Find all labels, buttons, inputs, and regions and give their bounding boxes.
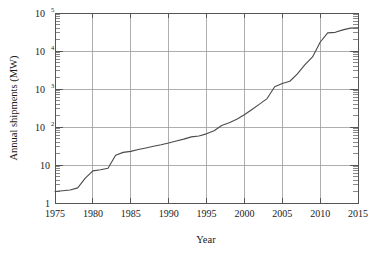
y-tick-label: 1 [45,198,50,209]
x-tick-label: 1990 [159,208,179,219]
semi-log-line-chart: 110102103104105 197519801985199019952000… [0,0,382,257]
y-tick-label-exponent: 3 [51,82,54,89]
y-tick-label: 10 [40,160,50,171]
x-tick-label: 1985 [121,208,141,219]
y-tick-label-exponent: 4 [51,44,55,51]
y-tick-label: 10 [35,46,45,57]
y-tick-label: 10 [35,122,45,133]
chart-figure: 110102103104105 197519801985199019952000… [0,0,382,257]
y-tick-labels: 110102103104105 [35,6,55,209]
y-tick-label: 10 [35,84,45,95]
y-tick-label: 10 [35,8,45,19]
x-tick-labels: 197519801985199019952000200520102015 [45,208,368,219]
x-tick-label: 2010 [310,208,330,219]
x-tick-label: 1980 [83,208,103,219]
y-tick-label-exponent: 5 [51,6,54,13]
y-tick-label-exponent: 2 [51,120,54,127]
y-axis-title: Annual shipments (MW) [8,55,20,160]
x-tick-label: 2005 [272,208,292,219]
x-tick-label: 2000 [234,208,254,219]
x-tick-label: 2015 [348,208,368,219]
x-tick-label: 1975 [45,208,65,219]
x-tick-label: 1995 [197,208,217,219]
x-axis-title: Year [196,234,216,245]
